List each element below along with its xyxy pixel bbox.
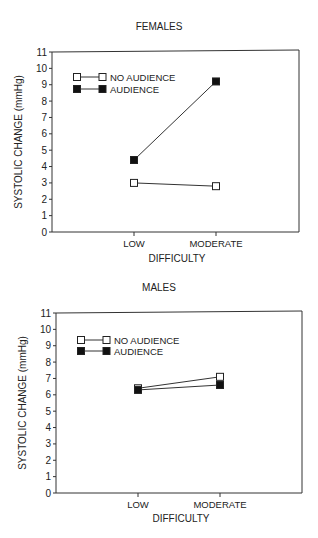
legend-label: NO AUDIENCE — [114, 335, 179, 346]
series-line-1 — [138, 385, 220, 390]
filled-square-marker — [213, 78, 220, 85]
chart-males: MALES01234567891011LOWMODERATEDIFFICULTY… — [17, 282, 302, 524]
chart-females: FEMALES01234567891011LOWMODERATEDIFFICUL… — [13, 21, 299, 264]
x-tick-label: MODERATE — [189, 238, 242, 249]
y-tick-label: 6 — [41, 128, 47, 139]
x-axis-label: DIFFICULTY — [148, 253, 205, 264]
y-tick-label: 2 — [41, 194, 47, 205]
filled-square-marker — [135, 386, 142, 393]
y-tick-label: 7 — [45, 373, 51, 384]
y-tick-label: 6 — [45, 389, 51, 400]
open-square-marker — [217, 373, 224, 380]
y-axis-label: SYSTOLIC CHANGE (mmHg) — [13, 75, 24, 209]
figure: FEMALES01234567891011LOWMODERATEDIFFICUL… — [0, 0, 318, 538]
y-tick-label: 10 — [40, 324, 52, 335]
y-tick-label: 4 — [41, 161, 47, 172]
filled-square-marker — [217, 382, 224, 389]
y-tick-label: 7 — [41, 112, 47, 123]
chart-title: FEMALES — [136, 21, 183, 32]
y-tick-label: 2 — [45, 455, 51, 466]
legend-marker — [103, 348, 110, 355]
frame-top — [56, 311, 302, 313]
legend-marker — [103, 337, 110, 344]
y-tick-label: 9 — [45, 340, 51, 351]
y-tick-label: 8 — [45, 357, 51, 368]
chart-title: MALES — [142, 282, 176, 293]
y-tick-label: 3 — [45, 438, 51, 449]
y-tick-label: 11 — [37, 47, 48, 58]
y-tick-label: 0 — [41, 227, 47, 238]
x-axis-label: DIFFICULTY — [152, 513, 209, 524]
y-tick-label: 3 — [41, 177, 47, 188]
legend-marker — [78, 337, 85, 344]
open-square-marker — [131, 179, 138, 186]
legend-marker — [99, 86, 106, 93]
legend-label: NO AUDIENCE — [110, 72, 175, 83]
y-tick-label: 1 — [41, 210, 47, 221]
x-tick-label: LOW — [127, 499, 149, 510]
filled-square-marker — [131, 157, 138, 164]
y-tick-label: 11 — [41, 308, 52, 319]
series-line-0 — [138, 377, 220, 388]
y-tick-label: 4 — [45, 422, 51, 433]
legend-label: AUDIENCE — [110, 84, 159, 95]
x-tick-label: LOW — [123, 238, 145, 249]
legend-marker — [74, 86, 81, 93]
open-square-marker — [213, 183, 220, 190]
y-axis-label: SYSTOLIC CHANGE (mmHg) — [17, 336, 28, 470]
legend-label: AUDIENCE — [114, 346, 163, 357]
y-tick-label: 5 — [45, 406, 51, 417]
x-tick-label: MODERATE — [193, 499, 246, 510]
legend-marker — [78, 348, 85, 355]
y-tick-label: 5 — [41, 145, 47, 156]
legend-marker — [99, 74, 106, 81]
frame-top — [52, 50, 299, 52]
y-tick-label: 0 — [45, 488, 51, 499]
series-line-0 — [134, 183, 216, 186]
y-tick-label: 10 — [36, 63, 48, 74]
y-tick-label: 8 — [41, 96, 47, 107]
legend-marker — [74, 74, 81, 81]
y-tick-label: 9 — [41, 79, 47, 90]
y-tick-label: 1 — [45, 471, 51, 482]
